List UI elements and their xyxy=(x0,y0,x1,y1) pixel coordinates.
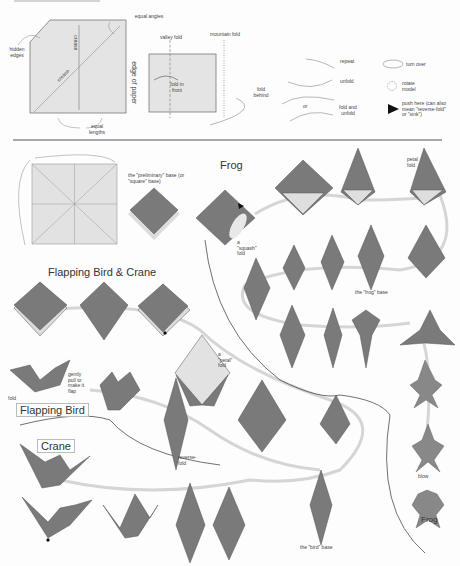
flapping-bird-title: Flapping Bird xyxy=(16,403,89,417)
origami-diagram-canvas xyxy=(0,0,460,566)
fold-types-diagram xyxy=(149,40,245,125)
frog-final-steps xyxy=(410,360,444,528)
blow-label: blow xyxy=(418,474,428,480)
edge-of-paper-label: edge of paper xyxy=(132,61,138,104)
fold-label: fold xyxy=(8,396,16,402)
hidden-edges-label: hidden edges xyxy=(3,47,31,58)
gently-pull-label: gently pull to make it flap xyxy=(68,372,86,394)
crease-vertical-label: crease xyxy=(73,35,79,50)
preliminary-base-label: the "preliminary" base (or "square" base… xyxy=(128,173,188,184)
valley-fold-label: valley fold xyxy=(158,35,184,41)
frog-base-label: the "frog" base xyxy=(355,290,388,296)
fold-in-front-label: fold in front xyxy=(166,82,188,93)
equal-lengths-label: equal lengths xyxy=(84,124,110,135)
crane-figures xyxy=(20,444,158,542)
squash-fold-label: a "squash" fold xyxy=(237,240,257,257)
push-here-label: push here (can also mean "reverse-fold" … xyxy=(402,101,448,118)
crane-title: Crane xyxy=(37,439,75,453)
frog-final-title: Frog xyxy=(421,515,437,524)
reverse-fold-label: reverse-fold xyxy=(178,455,198,466)
preliminary-base xyxy=(128,188,180,240)
fold-and-unfold-label: fold and unfold xyxy=(335,105,361,116)
bird-base-label: the "bird" base xyxy=(300,545,332,551)
squash-fold-step xyxy=(196,190,255,245)
starting-square xyxy=(19,155,117,245)
frog-steps-row3 xyxy=(280,305,455,368)
frog-steps-row2 xyxy=(244,225,445,320)
turn-over-label: turn over xyxy=(406,62,426,68)
fold-behind-label: fold behind xyxy=(250,87,272,98)
flapping-bird-crane-title: Flapping Bird & Crane xyxy=(48,266,156,278)
equal-angles-label: equal angles xyxy=(134,14,164,20)
unfold-label: unfold xyxy=(340,79,354,85)
rotate-model-label: rotate model xyxy=(402,81,426,92)
or-label: or xyxy=(303,104,307,110)
mountain-fold-label: mountain fold xyxy=(208,32,242,38)
frog-section-title: Frog xyxy=(220,159,243,171)
petal-fold-mid-label: a "petal" fold xyxy=(218,352,236,369)
repeat-label: repeat xyxy=(340,59,354,65)
petal-fold-top-label: petal fold xyxy=(407,157,421,168)
